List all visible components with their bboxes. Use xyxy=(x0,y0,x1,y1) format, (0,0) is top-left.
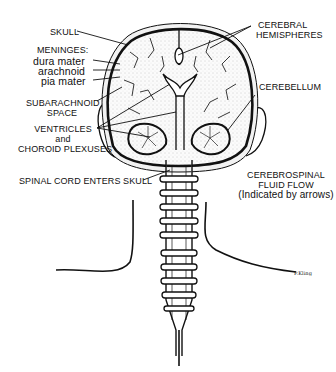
label-ventricles-line1: VENTRICLES xyxy=(18,124,108,134)
label-skull: SKULL xyxy=(50,27,79,37)
label-cerebral-line1: CEREBRAL xyxy=(256,20,323,30)
label-csf-flow: CEREBROSPINAL FLUID FLOW (Indicated by a… xyxy=(236,170,336,200)
skull xyxy=(102,24,258,173)
artist-signature: P.Kling xyxy=(294,268,312,278)
label-cerebellum: CEREBELLUM xyxy=(259,82,321,92)
label-spinal-cord: SPINAL CORD ENTERS SKULL xyxy=(19,176,152,186)
label-ventricles-line3: CHOROID PLEXUSES xyxy=(18,144,108,154)
label-cerebral-hemispheres: CEREBRAL HEMISPHERES xyxy=(256,20,323,40)
label-csf-line1: CEREBROSPINAL xyxy=(236,170,336,180)
label-subarachnoid-line1: SUBARACHNOID xyxy=(26,98,98,108)
label-ventricles-line2: and xyxy=(18,134,108,144)
label-pia-mater: pia mater xyxy=(41,76,86,86)
label-cerebral-line2: HEMISPHERES xyxy=(256,30,323,40)
label-subarachnoid-line2: SPACE xyxy=(26,108,98,118)
label-ventricles: VENTRICLES and CHOROID PLEXUSES xyxy=(18,124,108,154)
label-subarachnoid: SUBARACHNOID SPACE xyxy=(26,98,98,118)
label-csf-line3: (Indicated by arrows) xyxy=(236,190,336,200)
label-meninges: MENINGES: xyxy=(37,45,88,55)
diagram-canvas: SKULL MENINGES: dura mater arachnoid pia… xyxy=(0,0,336,372)
